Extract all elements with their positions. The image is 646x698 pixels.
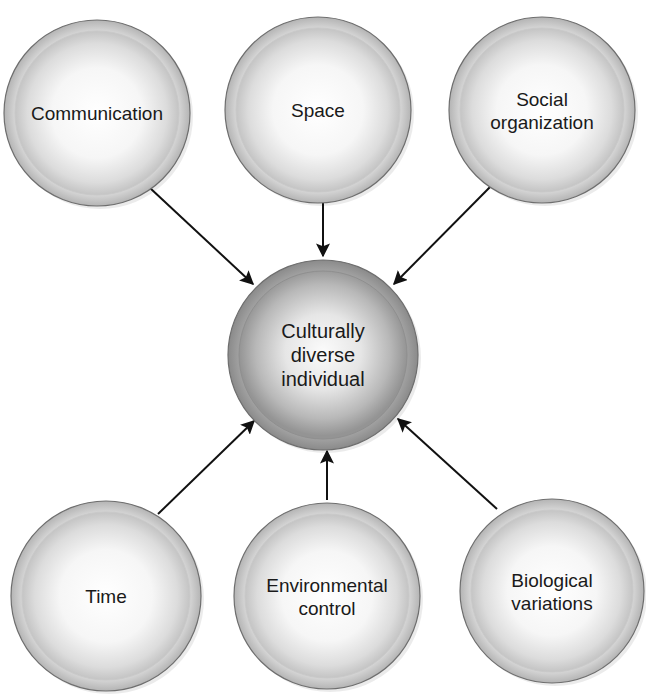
node-label-line: Environmental	[266, 575, 387, 596]
diagram-canvas: CommunicationSpaceSocialorganizationTime…	[0, 0, 646, 698]
node-label-line: Communication	[31, 103, 163, 124]
node-label-line: Space	[291, 100, 345, 121]
node-inner-disc	[460, 28, 624, 192]
node-label: Time	[85, 586, 127, 607]
node-label: Culturallydiverseindividual	[281, 320, 364, 390]
node-label-line: Social	[516, 89, 568, 110]
node-time: Time	[11, 501, 204, 694]
node-space: Space	[225, 17, 414, 206]
node-communication: Communication	[4, 20, 193, 209]
node-label-line: Culturally	[281, 320, 364, 342]
node-label-line: Time	[85, 586, 127, 607]
node-environmental-control: Environmentalcontrol	[234, 503, 423, 692]
node-label-line: diverse	[291, 344, 355, 366]
node-biological-variations: Biologicalvariations	[460, 499, 646, 686]
node-center: Culturallydiverseindividual	[228, 260, 421, 453]
node-social-organization: Socialorganization	[449, 17, 638, 206]
node-label-line: individual	[281, 368, 364, 390]
node-label-line: variations	[511, 593, 592, 614]
center-layer: Culturallydiverseindividual	[228, 260, 421, 453]
arrow-biological-variations-to-center	[398, 419, 497, 509]
node-label: Communication	[31, 103, 163, 124]
node-label-line: Biological	[511, 570, 592, 591]
node-label-line: organization	[490, 112, 594, 133]
arrow-communication-to-center	[150, 188, 253, 284]
arrow-time-to-center	[158, 421, 254, 514]
arrow-social-organization-to-center	[394, 184, 493, 284]
node-label-line: control	[298, 598, 355, 619]
node-label: Space	[291, 100, 345, 121]
node-inner-disc	[245, 514, 409, 678]
node-inner-disc	[471, 510, 633, 672]
